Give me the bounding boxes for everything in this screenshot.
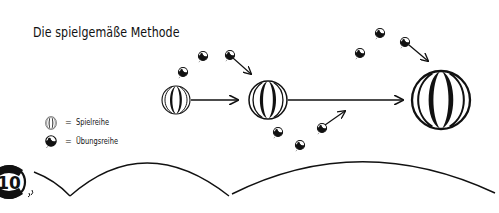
- spielreihe-ball-1-icon: [162, 86, 190, 114]
- ground-arc: [70, 163, 229, 196]
- exercise-arrow: [325, 111, 345, 125]
- exercise-arrow: [233, 58, 251, 74]
- exercise-arrow: [409, 45, 428, 61]
- legend-icon-spacer: [45, 115, 59, 129]
- spielreihe-ball-3-icon: [412, 71, 470, 129]
- method-diagram: 10: [0, 0, 499, 213]
- uebungsreihe-ball-icon: [295, 140, 304, 151]
- legend-item-spielreihe: = Spielreihe: [45, 115, 116, 129]
- legend-equals: =: [65, 136, 72, 146]
- ground-arc: [34, 172, 70, 196]
- uebungsreihe-ball-icon: [178, 67, 187, 78]
- ground-arc: [232, 162, 495, 194]
- legend-item-uebungsreihe: = Übungsreihe: [45, 134, 127, 148]
- uebungsreihe-ball-icon: [355, 48, 364, 59]
- spielreihe-ball-2-icon: [249, 81, 287, 119]
- legend-equals: =: [65, 117, 72, 127]
- uebungsreihe-ball-icon: [400, 37, 409, 48]
- legend-label-spielreihe: Spielreihe: [76, 117, 109, 127]
- uebungsreihe-ball-icon: [225, 50, 234, 61]
- uebungsreihe-ball-icon: [375, 28, 384, 39]
- legend-label-uebungsreihe: Übungsreihe: [76, 136, 118, 146]
- uebungsreihe-ball-icon: [273, 127, 282, 138]
- uebungsreihe-ball-icon: [198, 51, 207, 62]
- legend-icon-spacer: [45, 134, 59, 148]
- page-number: 10: [0, 173, 21, 193]
